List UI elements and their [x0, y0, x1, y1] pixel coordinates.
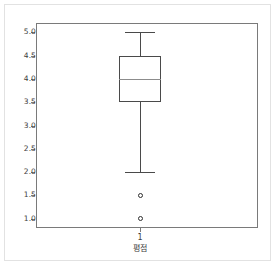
y-tick-label: 1.0 [8, 215, 36, 223]
y-tick-label: 2.0 [8, 168, 36, 176]
whisker-cap-upper [125, 32, 155, 33]
y-tick-label: 5.0 [8, 28, 36, 36]
whisker-cap-lower [125, 172, 155, 173]
y-tick-label: 3.0 [8, 122, 36, 130]
y-tick-label: 2.5 [8, 145, 36, 153]
y-tick-label: 4.5 [8, 52, 36, 60]
y-tick-label: 4.0 [8, 75, 36, 83]
boxplot-figure: 5.04.54.03.53.02.52.01.51.0 1 평점 [0, 0, 277, 267]
x-tick-label: 1 [137, 233, 142, 242]
whisker-lower [140, 102, 141, 172]
y-axis: 5.04.54.03.53.02.52.01.51.0 [0, 0, 36, 267]
whisker-upper [140, 32, 141, 55]
x-axis-title: 평점 [133, 244, 147, 253]
y-tick-label: 3.5 [8, 98, 36, 106]
x-tick-mark [140, 228, 141, 232]
median-line [119, 79, 161, 80]
outlier-point [138, 193, 143, 198]
plot-area-frame [36, 23, 258, 228]
y-tick-label: 1.5 [8, 191, 36, 199]
